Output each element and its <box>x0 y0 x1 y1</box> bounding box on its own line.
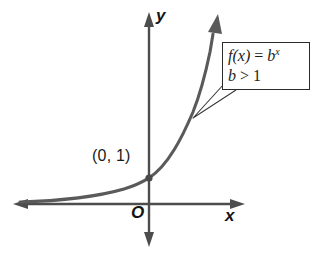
callout-function-prefix: f(x) <box>228 47 254 64</box>
y-intercept-point <box>145 174 152 181</box>
x-axis-label: x <box>225 206 234 226</box>
callout-condition-value: 1 <box>253 67 261 84</box>
callout-condition-line: b > 1 <box>228 66 309 86</box>
y-axis-label: y <box>156 6 165 26</box>
curve-path <box>20 34 213 202</box>
callout-function-equals: = <box>254 47 267 64</box>
curve-arrow-icon <box>208 14 222 34</box>
callout-function-exponent: x <box>275 46 279 57</box>
y-intercept-label: (0, 1) <box>92 147 131 165</box>
exponential-curve <box>20 14 222 202</box>
callout-condition-operator: > <box>240 67 253 84</box>
y-axis <box>144 12 154 247</box>
callout-condition-base: b <box>228 67 240 84</box>
origin-label: O <box>131 203 144 223</box>
exponential-function-figure: y x O (0, 1) f(x) = bx b > 1 <box>0 0 317 253</box>
function-callout-box: f(x) = bx b > 1 <box>222 42 310 90</box>
graph-canvas <box>0 0 317 253</box>
callout-function-line: f(x) = bx <box>228 46 309 66</box>
y-axis-arrow-up-icon <box>144 12 154 27</box>
y-axis-arrow-down-icon <box>144 232 154 247</box>
